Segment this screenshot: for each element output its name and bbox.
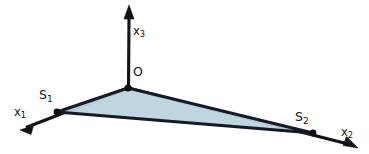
plane-triangle-fill xyxy=(57,88,313,133)
axis-label-x2: x2 xyxy=(341,127,353,139)
point-label-s2: S2 xyxy=(295,111,309,124)
vertex-dot-s2 xyxy=(310,130,317,137)
axis-label-x3-subscript: 3 xyxy=(140,29,145,39)
axis-label-x3: x3 xyxy=(133,26,145,38)
point-label-s2-subscript: 2 xyxy=(303,116,309,126)
coordinate-system-diagram: x3 x1 x2 S1 S2 O xyxy=(0,0,369,154)
axis-x3-shaft xyxy=(129,16,130,88)
vertex-dot-s1 xyxy=(54,109,61,116)
axis-label-x2-subscript: 2 xyxy=(348,130,353,140)
vertex-dot-origin xyxy=(124,84,131,91)
point-label-s1: S1 xyxy=(39,89,53,102)
point-label-s1-subscript: 1 xyxy=(47,94,53,104)
axis-label-x1-subscript: 1 xyxy=(21,110,26,120)
diagram-canvas xyxy=(0,0,369,154)
axis-label-x1: x1 xyxy=(14,107,26,119)
axis-x3-arrowhead xyxy=(124,5,134,19)
point-label-origin: O xyxy=(133,66,143,79)
